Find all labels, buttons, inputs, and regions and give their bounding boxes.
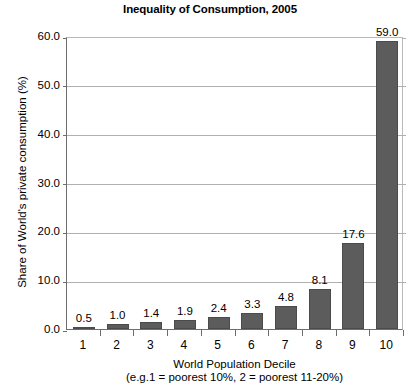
y-tick-mark: [63, 38, 67, 39]
x-tick-mark: [302, 330, 303, 336]
y-tick-label: 60.0: [16, 31, 60, 42]
y-tick-mark: [63, 184, 67, 185]
y-tick-mark-right: [402, 86, 406, 87]
bar-slot: 0.5: [67, 38, 101, 329]
bar-slot: 1.9: [168, 38, 202, 329]
y-tick-mark-right: [402, 282, 406, 283]
y-tick-label: 10.0: [16, 275, 60, 286]
bar-value-label: 1.9: [177, 305, 193, 317]
y-tick-mark: [63, 233, 67, 234]
y-tick-mark-right: [402, 184, 406, 185]
bar[interactable]: [107, 324, 129, 329]
bar-value-label: 1.0: [110, 309, 126, 321]
bar[interactable]: [309, 289, 331, 329]
bar[interactable]: [73, 327, 95, 329]
y-tick-label: 30.0: [16, 178, 60, 189]
bar[interactable]: [275, 306, 297, 329]
y-tick-mark-right: [402, 233, 406, 234]
y-tick-mark: [63, 282, 67, 283]
bar[interactable]: [174, 320, 196, 329]
bar-slot: 59.0: [370, 38, 404, 329]
bar-slot: 1.0: [101, 38, 135, 329]
bar-slot: 4.8: [269, 38, 303, 329]
y-tick-label: 0.0: [16, 324, 60, 335]
x-tick-mark: [133, 330, 134, 336]
plot-area: 0.51.01.41.92.43.34.88.117.659.0: [66, 37, 403, 330]
y-tick-label: 40.0: [16, 129, 60, 140]
y-tick-label: 50.0: [16, 80, 60, 91]
y-tick-label: 20.0: [16, 226, 60, 237]
chart-title: Inequality of Consumption, 2005: [0, 3, 420, 15]
bar-slot: 17.6: [337, 38, 371, 329]
y-tick-mark: [63, 331, 67, 332]
x-tick-mark: [403, 330, 404, 336]
bar-value-label: 1.4: [143, 307, 159, 319]
bar-value-label: 0.5: [76, 312, 92, 324]
x-axis-subtitle: (e.g.1 = poorest 10%, 2 = poorest 11-20%…: [46, 371, 420, 383]
x-tick-mark: [369, 330, 370, 336]
bar[interactable]: [376, 41, 398, 329]
bar-slot: 3.3: [236, 38, 270, 329]
bar-slot: 2.4: [202, 38, 236, 329]
bar[interactable]: [140, 322, 162, 329]
x-tick-mark: [201, 330, 202, 336]
x-tick-label: 10: [366, 338, 406, 352]
bar-value-label: 17.6: [342, 228, 364, 240]
x-tick-mark: [167, 330, 168, 336]
bars-layer: 0.51.01.41.92.43.34.88.117.659.0: [67, 38, 402, 329]
chart-container: Inequality of Consumption, 2005 Share of…: [0, 0, 420, 387]
x-tick-mark: [235, 330, 236, 336]
x-tick-mark: [336, 330, 337, 336]
x-tick-mark: [100, 330, 101, 336]
bar[interactable]: [208, 317, 230, 329]
bar-value-label: 3.3: [244, 298, 260, 310]
y-tick-mark-right: [402, 135, 406, 136]
bar[interactable]: [241, 313, 263, 329]
y-tick-mark: [63, 135, 67, 136]
bar[interactable]: [342, 243, 364, 329]
y-tick-mark-right: [402, 38, 406, 39]
bar-slot: 1.4: [134, 38, 168, 329]
bar-slot: 8.1: [303, 38, 337, 329]
bar-value-label: 8.1: [312, 274, 328, 286]
bar-value-label: 4.8: [278, 291, 294, 303]
bar-value-label: 59.0: [376, 26, 398, 38]
x-axis-title: World Population Decile: [66, 358, 403, 370]
x-tick-mark: [268, 330, 269, 336]
bar-value-label: 2.4: [211, 302, 227, 314]
y-tick-mark: [63, 86, 67, 87]
